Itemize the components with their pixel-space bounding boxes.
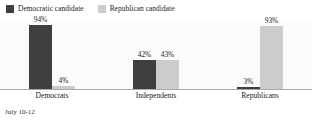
grouped-bar-chart: Democratic candidate Republican candidat… [0,0,312,124]
bar-value-independents-republican: 43% [148,50,188,59]
bar-groups: 94% 4% 42% 43% [0,21,312,89]
bar-slot-democrats-republican: 4% [52,21,75,89]
category-axis-labels: Democrats Independents Republicans [0,91,312,101]
legend-swatch-icon-republican [98,5,106,13]
x-axis-baseline [0,89,312,90]
bar-democrats-republican[interactable] [52,86,75,89]
legend-swatch-icon-democratic [6,5,14,13]
bars-democrats: 94% 4% [0,21,104,89]
chart-footnote: July 10-12 [5,108,35,117]
bar-value-democrats-republican: 4% [44,76,84,85]
bars-republicans: 3% 93% [208,21,312,89]
bar-independents-democratic[interactable] [133,60,156,89]
bar-group-republicans: 3% 93% [208,21,312,89]
category-label-independents: Independents [104,91,208,101]
category-label-republicans: Republicans [208,91,312,101]
bar-republicans-republican[interactable] [260,26,283,89]
bar-value-republicans-republican: 93% [252,16,292,25]
bar-slot-independents-republican: 43% [156,21,179,89]
bars-independents: 42% 43% [104,21,208,89]
legend-label-republican: Republican candidate [110,5,175,13]
chart-legend: Democratic candidate Republican candidat… [6,3,174,15]
category-label-democrats: Democrats [0,91,104,101]
legend-item-democratic: Democratic candidate [6,5,84,13]
bar-independents-republican[interactable] [156,60,179,89]
legend-label-democratic: Democratic candidate [18,5,84,13]
bar-slot-republicans-democratic: 3% [237,21,260,89]
bar-group-independents: 42% 43% [104,21,208,89]
bar-slot-republicans-republican: 93% [260,21,283,89]
bar-group-democrats: 94% 4% [0,21,104,89]
legend-item-republican: Republican candidate [98,5,175,13]
bar-republicans-democratic[interactable] [237,87,260,89]
